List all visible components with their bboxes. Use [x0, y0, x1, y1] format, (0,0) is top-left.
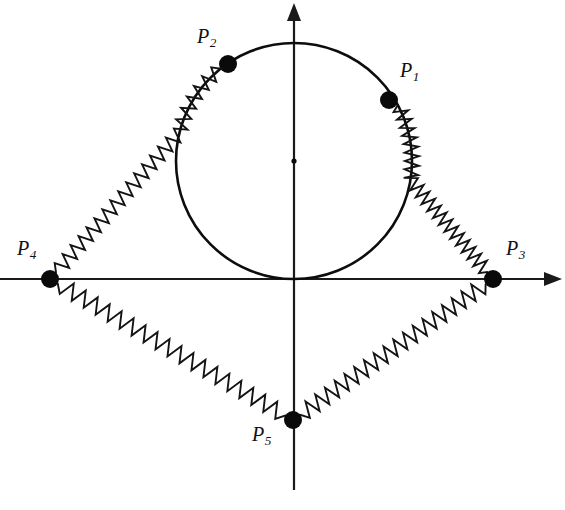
- node-dot-p4[interactable]: [41, 270, 59, 288]
- node-label-subscript-p2: 2: [210, 35, 217, 50]
- node-label-subscript-p5: 5: [265, 433, 272, 448]
- node-dot-p5[interactable]: [284, 411, 302, 429]
- spring-p2-p4: [50, 63, 228, 279]
- node-label-base-p4: P: [17, 237, 29, 259]
- nodes-group: [41, 55, 502, 429]
- springs-group: [50, 63, 493, 420]
- node-dot-p2[interactable]: [219, 55, 237, 73]
- node-label-base-p1: P: [400, 59, 412, 81]
- circle-center-dot: [291, 158, 296, 163]
- node-label-p2: P2: [197, 26, 216, 46]
- node-label-p4: P4: [17, 238, 36, 258]
- node-label-subscript-p4: 4: [30, 247, 37, 262]
- node-label-base-p2: P: [197, 25, 209, 47]
- node-label-subscript-p1: 1: [413, 69, 420, 84]
- diagram-svg: [0, 0, 565, 510]
- node-label-base-p3: P: [506, 237, 518, 259]
- spring-p5-p3: [293, 279, 493, 420]
- x-axis-arrow-icon: [544, 272, 562, 286]
- node-label-base-p5: P: [252, 423, 264, 445]
- node-label-p1: P1: [400, 60, 419, 80]
- node-dot-p3[interactable]: [484, 270, 502, 288]
- node-dot-p1[interactable]: [380, 91, 398, 109]
- y-axis-arrow-icon: [287, 3, 301, 21]
- node-label-p3: P3: [506, 238, 525, 258]
- spring-p4-p5: [50, 279, 293, 420]
- node-label-subscript-p3: 3: [519, 247, 526, 262]
- node-label-p5: P5: [252, 424, 271, 444]
- figure-canvas: P1P2P3P4P5: [0, 0, 565, 510]
